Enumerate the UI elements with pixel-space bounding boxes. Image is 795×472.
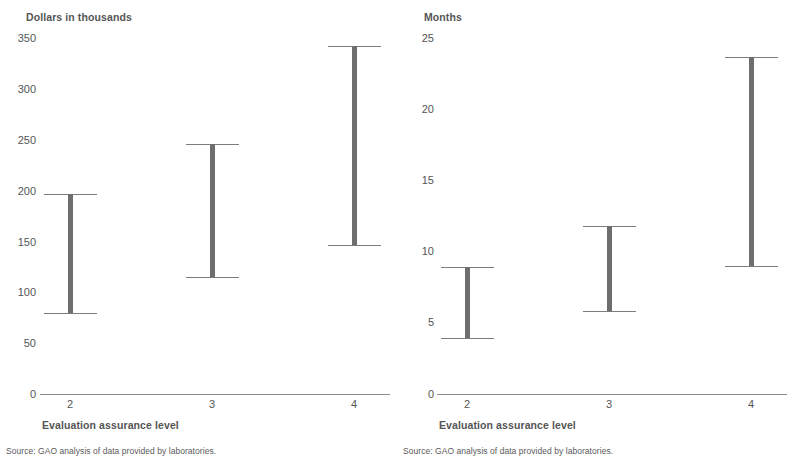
range-stem <box>352 46 357 246</box>
range-cap-low <box>44 313 97 314</box>
y-tick-label: 150 <box>0 237 36 248</box>
y-tick-label: 300 <box>0 84 36 95</box>
x-axis-title-dollars: Evaluation assurance level <box>42 419 179 431</box>
range-stem <box>607 226 612 312</box>
range-stem <box>210 144 215 278</box>
range-stem <box>749 57 754 267</box>
y-tick-label: 0 <box>398 389 434 400</box>
chart-panel-dollars: Dollars in thousands 350 300 250 200 150… <box>0 0 397 472</box>
y-tick-label: 10 <box>398 246 434 257</box>
x-tick-label: 3 <box>200 398 224 410</box>
range-stem <box>465 267 470 339</box>
range-cap-low <box>328 245 381 246</box>
y-tick-label: 250 <box>0 135 36 146</box>
source-note-months: Source: GAO analysis of data provided by… <box>403 446 613 456</box>
range-cap-low <box>725 266 778 267</box>
range-cap-low <box>441 338 494 339</box>
range-cap-low <box>186 277 239 278</box>
y-tick-label: 200 <box>0 186 36 197</box>
x-axis-line <box>40 394 390 395</box>
y-tick-label: 25 <box>398 33 434 44</box>
y-tick-label: 100 <box>0 287 36 298</box>
x-tick-label: 2 <box>58 398 82 410</box>
plot-area-dollars: 350 300 250 200 150 100 50 0 2 3 4 <box>0 0 397 472</box>
chart-panel-months: Months 25 20 15 10 5 0 2 3 4 <box>398 0 795 472</box>
source-note-dollars: Source: GAO analysis of data provided by… <box>6 446 216 456</box>
y-tick-label: 20 <box>398 104 434 115</box>
y-tick-label: 0 <box>0 389 36 400</box>
y-tick-label: 50 <box>0 338 36 349</box>
range-cap-low <box>583 311 636 312</box>
x-tick-label: 4 <box>739 398 763 410</box>
y-tick-label: 350 <box>0 33 36 44</box>
x-tick-label: 2 <box>455 398 479 410</box>
range-stem <box>68 194 73 314</box>
y-tick-label: 15 <box>398 175 434 186</box>
plot-area-months: 25 20 15 10 5 0 2 3 4 Evaluation assuran <box>398 0 795 472</box>
x-axis-title-months: Evaluation assurance level <box>439 419 576 431</box>
x-tick-label: 4 <box>342 398 366 410</box>
y-tick-label: 5 <box>398 317 434 328</box>
x-tick-label: 3 <box>597 398 621 410</box>
x-axis-line <box>437 394 787 395</box>
